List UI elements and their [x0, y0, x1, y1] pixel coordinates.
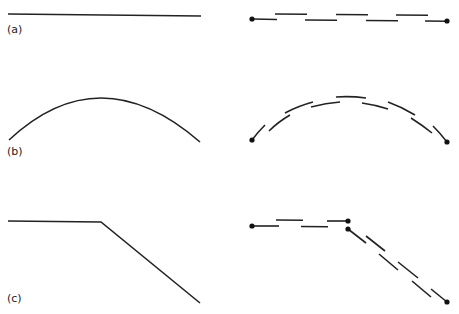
- endpoint-dot: [249, 16, 254, 21]
- panel-c-dashed-polyline: [252, 220, 447, 302]
- endpoint-dot: [345, 218, 350, 223]
- panel-a-dashed-line: [252, 14, 447, 21]
- endpoint-dot: [444, 299, 449, 304]
- figure: [0, 0, 459, 314]
- endpoint-dot: [249, 223, 254, 228]
- panel-b-dashed-arc: [252, 97, 447, 142]
- endpoint-dot: [444, 18, 449, 23]
- panel-a-solid-line: [8, 14, 201, 16]
- panel-a-label: (a): [7, 23, 22, 36]
- panel-c-solid-polyline: [8, 221, 200, 303]
- panel-b-solid-arc: [9, 98, 200, 142]
- endpoint-dot: [444, 139, 449, 144]
- endpoint-dot: [249, 137, 254, 142]
- panel-b-label: (b): [7, 145, 23, 158]
- endpoint-dot: [345, 226, 350, 231]
- panel-c-label: (c): [7, 292, 22, 305]
